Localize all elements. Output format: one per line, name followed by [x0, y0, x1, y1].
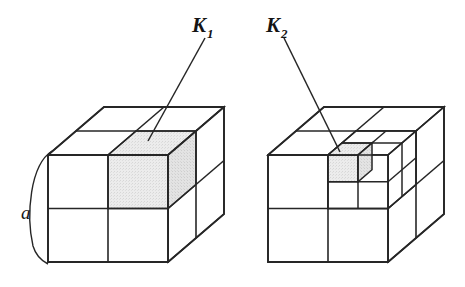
cube-diagram: a	[0, 0, 465, 287]
k1-label-subscript: 1	[207, 26, 214, 41]
figure-container: a	[0, 0, 465, 287]
k1-label: K	[191, 13, 208, 37]
right-cube	[268, 107, 444, 262]
k1-front-face	[108, 155, 168, 209]
k2-label-group: K 2	[265, 13, 288, 41]
k2-label-subscript: 2	[280, 26, 288, 41]
k2-label: K	[265, 13, 282, 37]
k2-front-face	[328, 155, 358, 182]
edge-length-label: a	[21, 202, 31, 223]
k1-label-group: K 1	[191, 13, 214, 41]
left-cube	[48, 107, 224, 262]
